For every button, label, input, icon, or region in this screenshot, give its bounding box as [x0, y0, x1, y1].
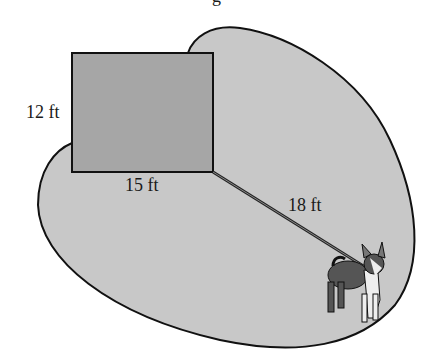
shed-rectangle [72, 53, 213, 172]
shed-height-label: 12 ft [26, 102, 60, 123]
diagram-canvas [0, 0, 433, 359]
leash-length-label: 18 ft [288, 195, 322, 216]
title-fragment: g [212, 0, 221, 7]
shed-width-label: 15 ft [125, 175, 159, 196]
